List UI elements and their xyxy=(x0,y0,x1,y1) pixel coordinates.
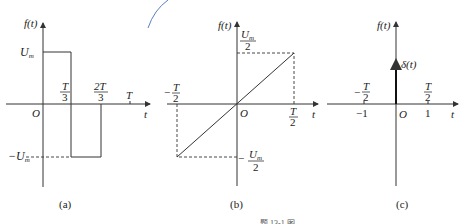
svg-text:3: 3 xyxy=(98,91,104,103)
y-axis-label: f(t) xyxy=(377,19,391,32)
origin-label: O xyxy=(399,108,407,120)
panel-label-a: (a) xyxy=(59,198,72,211)
panel-c: f(t) δ(t) − T 2 T 2 −1 O 1 t (c) xyxy=(327,19,458,211)
panel-b: f(t) Um 2 − Um 2 − T 2 O T 2 t (b) xyxy=(164,19,318,211)
svg-text:2: 2 xyxy=(245,40,251,52)
t-label: t xyxy=(312,108,316,120)
tick-label-neg-T2: − T 2 xyxy=(164,81,180,104)
origin-label: O xyxy=(32,107,40,119)
panel-a: f(t) Um −Um O t T 3 2T 3 T (a) xyxy=(6,17,150,211)
svg-text:−: − xyxy=(354,86,360,98)
tick-label-T3: T 3 xyxy=(60,80,70,103)
svg-text:2: 2 xyxy=(363,91,369,103)
tick-label-T2: T 2 xyxy=(424,80,432,103)
ramp-line xyxy=(177,53,294,157)
impulse-label: δ(t) xyxy=(401,58,417,71)
tick-label-T2: T 2 xyxy=(289,105,298,128)
t-label: t xyxy=(144,108,148,120)
um2-label: Um 2 xyxy=(240,28,256,52)
origin-label: O xyxy=(240,107,248,119)
neg-um-label: −Um xyxy=(8,149,30,164)
svg-text:2: 2 xyxy=(425,91,431,103)
svg-text:−: − xyxy=(238,152,244,164)
neg-um2-label: − Um 2 xyxy=(238,148,264,173)
tick-label-T: T xyxy=(126,89,133,101)
t-label: t xyxy=(451,108,455,120)
tick-value-neg1: −1 xyxy=(356,107,368,119)
y-axis-label: f(t) xyxy=(218,19,232,32)
decoration-arc xyxy=(148,0,168,28)
tick-label-neg-T2: − T 2 xyxy=(354,80,370,103)
panel-label-b: (b) xyxy=(230,198,243,211)
y-axis-label: f(t) xyxy=(24,17,38,30)
svg-text:2: 2 xyxy=(253,161,259,173)
svg-text:Um: Um xyxy=(249,148,262,162)
svg-text:2: 2 xyxy=(290,116,296,128)
figure-caption: 题 13-1 图 xyxy=(260,219,295,224)
svg-text:3: 3 xyxy=(62,91,68,103)
figure-canvas: f(t) Um −Um O t T 3 2T 3 T (a) f(t) Um 2 xyxy=(0,0,462,224)
svg-text:2: 2 xyxy=(173,92,179,104)
um-label: Um xyxy=(20,45,34,60)
svg-text:−: − xyxy=(164,86,170,98)
tick-label-2T3: 2T 3 xyxy=(94,80,108,103)
panel-label-c: (c) xyxy=(396,198,409,211)
tick-value-1: 1 xyxy=(425,107,431,119)
